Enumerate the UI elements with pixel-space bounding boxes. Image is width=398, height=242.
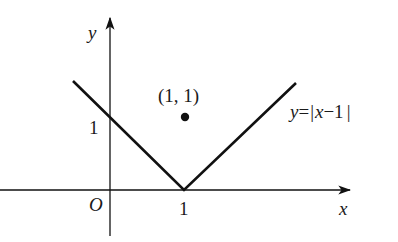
x-tick-1-label: 1 [179,198,189,219]
coordinate-diagram: y x O 1 1 (1, 1) y=|x−1| [0,0,398,242]
y-axis-label: y [86,22,97,43]
x-axis-label: x [338,198,348,219]
point-1-1 [181,113,189,121]
point-label: (1, 1) [158,85,199,107]
equation-label: y=|x−1| [288,101,350,122]
y-tick-1-label: 1 [89,117,99,138]
origin-label: O [89,194,103,215]
